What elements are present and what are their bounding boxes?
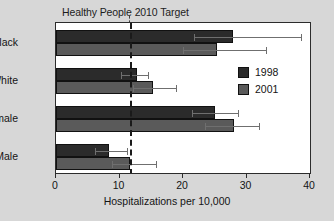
error-bar-white-2001: [133, 88, 176, 89]
legend-swatch-2001: [238, 84, 249, 95]
x-tick-20: [182, 174, 183, 178]
error-cap-low-male-1998: [95, 148, 96, 155]
error-cap-low-female-1998: [192, 110, 193, 117]
error-bar-male-2001: [112, 164, 156, 165]
error-cap-low-white-2001: [133, 85, 134, 92]
category-label-black: Black: [0, 36, 18, 48]
error-bar-black-2001: [183, 50, 266, 51]
target-reference-line: [130, 23, 132, 174]
legend-item-2001: 2001: [238, 83, 300, 95]
error-bar-male-1998: [95, 151, 127, 152]
x-axis-label: Hospitalizations per 10,000: [0, 195, 334, 207]
legend-label-1998: 1998: [255, 66, 278, 78]
error-cap-high-black-2001: [266, 47, 267, 54]
error-bar-female-1998: [192, 113, 238, 114]
x-tick-label-40: 40: [294, 179, 324, 191]
error-cap-high-female-1998: [238, 110, 239, 117]
x-tick-label-0: 0: [40, 179, 70, 191]
chart-legend: 1998 2001: [238, 66, 300, 100]
x-tick-40: [309, 174, 310, 178]
legend-swatch-1998: [238, 67, 249, 78]
error-cap-high-male-1998: [127, 148, 128, 155]
error-cap-low-male-2001: [112, 161, 113, 168]
error-bar-female-2001: [205, 126, 259, 127]
error-cap-high-female-2001: [259, 123, 260, 130]
category-label-female: Female: [0, 112, 18, 124]
x-tick-30: [246, 174, 247, 178]
chart-container: Healthy People 2010 Target BlackWhiteFem…: [0, 0, 334, 221]
error-cap-high-white-2001: [176, 85, 177, 92]
x-tick-label-30: 30: [231, 179, 261, 191]
error-cap-low-white-1998: [121, 72, 122, 79]
chart-title: Healthy People 2010 Target: [62, 6, 189, 18]
error-bar-white-1998: [121, 75, 148, 76]
legend-item-1998: 1998: [238, 66, 300, 78]
error-cap-low-black-2001: [183, 47, 184, 54]
x-tick-10: [119, 174, 120, 178]
error-cap-high-white-1998: [148, 72, 149, 79]
category-label-white: White: [0, 74, 18, 86]
x-tick-0: [55, 174, 56, 178]
error-cap-high-black-1998: [301, 34, 302, 41]
error-cap-high-male-2001: [156, 161, 157, 168]
x-tick-label-20: 20: [167, 179, 197, 191]
legend-label-2001: 2001: [255, 83, 278, 95]
category-label-male: Male: [0, 150, 18, 162]
error-cap-low-black-1998: [194, 34, 195, 41]
error-cap-low-female-2001: [205, 123, 206, 130]
error-bar-black-1998: [194, 37, 301, 38]
x-tick-label-10: 10: [104, 179, 134, 191]
